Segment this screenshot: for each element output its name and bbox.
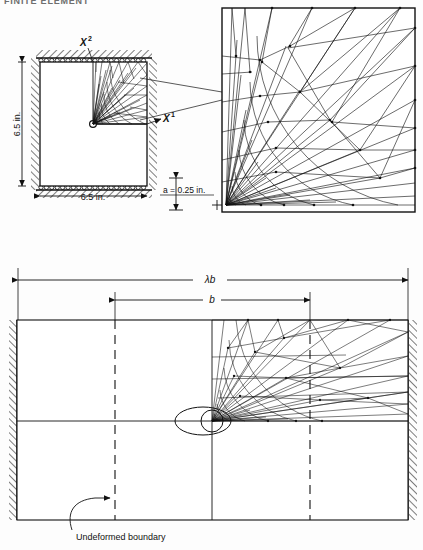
panel-magnified-mesh xyxy=(212,7,416,212)
left-side-hatch xyxy=(31,58,39,190)
lambda-b-label: λb xyxy=(204,274,216,285)
dimension-b: b xyxy=(115,292,310,320)
detail-crack-tip-cross xyxy=(212,200,222,210)
plate-width-label: 6.5 in. xyxy=(81,192,106,202)
x2-label-sup: 2 xyxy=(88,35,92,42)
top-fixed-hatch xyxy=(36,50,152,58)
deformed-left-hatch xyxy=(9,320,17,520)
undeformed-boundary-label: Undeformed boundary xyxy=(76,532,166,542)
b-label: b xyxy=(209,294,215,305)
crack-length-label: a = 0.25 in. xyxy=(163,185,205,195)
panel-deformed-configuration: λb b xyxy=(9,268,417,542)
crack-length-dimension: a = 0.25 in. xyxy=(160,178,214,210)
plate-height-dimension: 6.5 in. xyxy=(12,62,26,186)
plate-height-label: 6.5 in. xyxy=(12,112,22,137)
deformed-right-hatch xyxy=(409,320,417,520)
figure-canvas: X 2 X 1 6.5 in. 6.5 in. xyxy=(0,0,423,550)
panel-cracked-plate: X 2 X 1 6.5 in. 6.5 in. xyxy=(12,35,175,202)
x2-label-base: X xyxy=(79,37,88,48)
right-side-hatch xyxy=(149,58,157,190)
